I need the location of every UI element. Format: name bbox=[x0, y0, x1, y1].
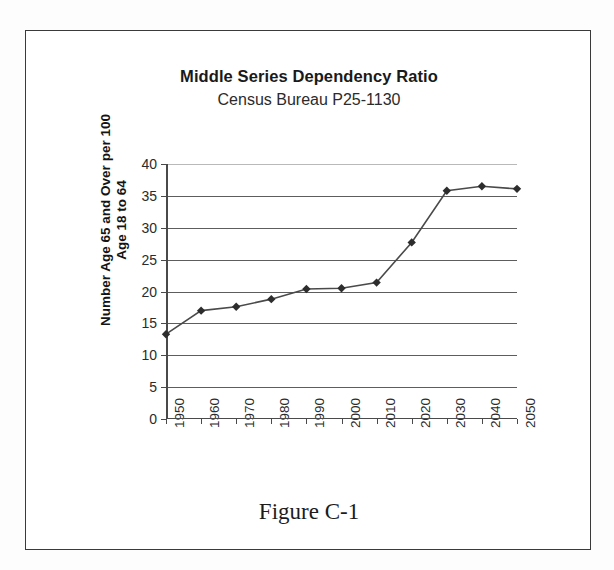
data-point-marker bbox=[267, 295, 275, 303]
series-polyline bbox=[166, 186, 517, 334]
y-axis-tick-label: 25 bbox=[141, 252, 157, 268]
figure-caption: Figure C-1 bbox=[26, 499, 592, 525]
x-axis-tick bbox=[342, 419, 343, 424]
series-line-middle-series bbox=[166, 164, 517, 419]
y-axis-tick-label: 30 bbox=[141, 220, 157, 236]
x-axis-tick bbox=[447, 419, 448, 424]
x-axis-tick bbox=[412, 419, 413, 424]
y-axis-tick-label: 40 bbox=[141, 156, 157, 172]
x-axis-tick bbox=[166, 419, 167, 424]
x-axis-tick bbox=[271, 419, 272, 424]
x-axis-tick bbox=[517, 419, 518, 424]
y-axis-tick-label: 20 bbox=[141, 284, 157, 300]
y-axis-title-line1: Number Age 65 and Over per 100 bbox=[98, 114, 114, 326]
plot-area: 0510152025303540 19501960197019801990200… bbox=[166, 164, 517, 419]
y-axis-tick-label: 10 bbox=[141, 347, 157, 363]
data-point-marker bbox=[232, 303, 240, 311]
y-axis-tick-label: 5 bbox=[149, 379, 157, 395]
data-point-marker bbox=[302, 285, 310, 293]
x-axis-tick bbox=[377, 419, 378, 424]
x-axis-tick bbox=[201, 419, 202, 424]
data-point-marker bbox=[513, 185, 521, 193]
data-point-marker bbox=[478, 182, 486, 190]
y-axis-title: Number Age 65 and Over per 100 Age 18 to… bbox=[93, 70, 135, 370]
y-axis-tick-label: 0 bbox=[149, 411, 157, 427]
x-axis-tick bbox=[306, 419, 307, 424]
y-axis-tick-label: 35 bbox=[141, 188, 157, 204]
x-axis-tick bbox=[236, 419, 237, 424]
x-axis-tick bbox=[482, 419, 483, 424]
x-axis-tick-label: 2050 bbox=[523, 398, 538, 428]
scanned-page: Middle Series Dependency Ratio Census Bu… bbox=[0, 0, 614, 570]
y-axis-title-line2: Age 18 to 64 bbox=[114, 180, 130, 260]
data-point-marker bbox=[337, 284, 345, 292]
y-axis-tick-label: 15 bbox=[141, 315, 157, 331]
figure-border-box: Middle Series Dependency Ratio Census Bu… bbox=[25, 30, 591, 550]
